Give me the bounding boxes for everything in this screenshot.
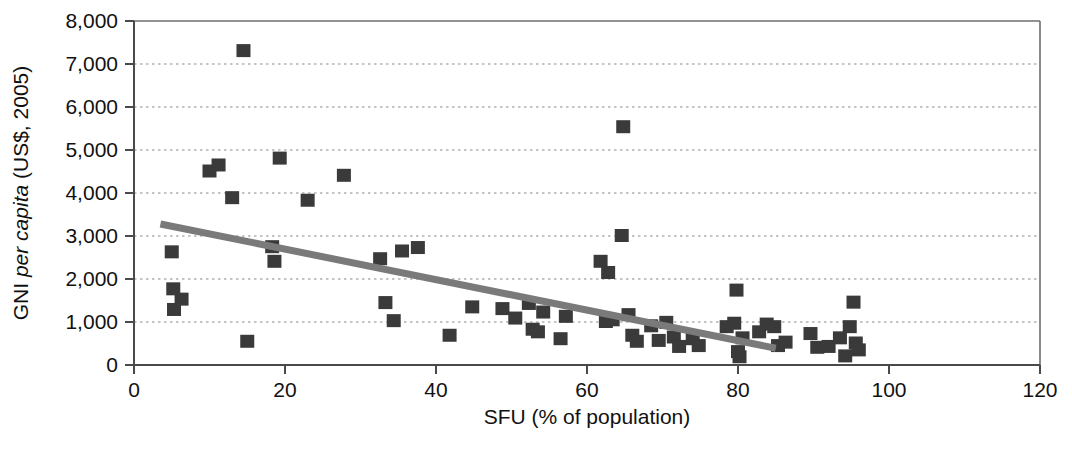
y-axis-title: GNI per capita (US$, 2005) xyxy=(9,66,32,320)
data-point-marker xyxy=(495,302,509,315)
y-tick-label: 1,000 xyxy=(65,310,118,333)
data-point-marker xyxy=(411,241,425,254)
y-tick-label: 4,000 xyxy=(65,181,118,204)
data-point-marker xyxy=(727,317,741,330)
grid-lines xyxy=(134,64,1040,322)
x-tick-label: 120 xyxy=(1022,378,1057,401)
data-point-marker xyxy=(225,191,239,204)
x-tick-label: 80 xyxy=(726,378,749,401)
data-point-marker xyxy=(267,255,281,268)
data-point-marker xyxy=(273,152,287,165)
y-tick-label: 5,000 xyxy=(65,138,118,161)
data-point-marker xyxy=(337,169,351,182)
data-point-marker xyxy=(729,284,743,297)
data-point-marker xyxy=(387,314,401,327)
data-point-marker xyxy=(847,296,861,309)
chart-figure: 01,0002,0003,0004,0005,0006,0007,0008,00… xyxy=(0,0,1072,456)
data-point-marker xyxy=(240,335,254,348)
y-axis-title-part: (US$, 2005) xyxy=(9,66,32,185)
x-tick-label: 100 xyxy=(871,378,906,401)
data-point-marker xyxy=(395,244,409,257)
data-point-marker xyxy=(615,229,629,242)
y-axis-title-part: per capita xyxy=(9,185,32,278)
data-point-marker xyxy=(559,310,573,323)
data-points xyxy=(165,44,866,363)
x-axis: 020406080100120 xyxy=(128,365,1057,401)
y-tick-label: 2,000 xyxy=(65,267,118,290)
x-axis-title: SFU (% of population) xyxy=(484,405,691,428)
y-tick-label: 6,000 xyxy=(65,95,118,118)
data-point-marker xyxy=(601,266,615,279)
trend-line xyxy=(160,224,775,348)
data-point-marker xyxy=(378,296,392,309)
data-point-marker xyxy=(508,312,522,325)
data-point-marker xyxy=(852,343,866,356)
data-point-marker xyxy=(630,335,644,348)
y-tick-label: 3,000 xyxy=(65,224,118,247)
data-point-marker xyxy=(443,329,457,342)
data-point-marker xyxy=(779,336,793,349)
data-point-marker xyxy=(531,325,545,338)
y-axis-title-part: GNI xyxy=(9,277,32,320)
data-point-marker xyxy=(373,252,387,265)
data-point-marker xyxy=(236,44,250,57)
x-tick-label: 20 xyxy=(273,378,296,401)
data-point-marker xyxy=(536,306,550,319)
data-point-marker xyxy=(616,120,630,133)
x-tick-label: 60 xyxy=(575,378,598,401)
y-tick-label: 8,000 xyxy=(65,9,118,32)
data-point-marker xyxy=(594,255,608,268)
data-point-marker xyxy=(838,349,852,362)
data-point-marker xyxy=(554,332,568,345)
data-point-marker xyxy=(212,158,226,171)
data-point-marker xyxy=(833,331,847,344)
data-point-marker xyxy=(175,293,189,306)
y-tick-label: 0 xyxy=(106,353,118,376)
data-point-marker xyxy=(301,194,315,207)
data-point-marker xyxy=(843,320,857,333)
data-point-marker xyxy=(767,320,781,333)
data-point-marker xyxy=(803,327,817,340)
data-point-marker xyxy=(692,339,706,352)
x-tick-label: 0 xyxy=(128,378,140,401)
x-tick-label: 40 xyxy=(424,378,447,401)
data-point-marker xyxy=(165,245,179,258)
data-point-marker xyxy=(465,300,479,313)
scatter-plot-svg: 01,0002,0003,0004,0005,0006,0007,0008,00… xyxy=(0,0,1072,456)
y-axis: 01,0002,0003,0004,0005,0006,0007,0008,00… xyxy=(65,9,134,376)
data-point-marker xyxy=(652,334,666,347)
data-point-marker xyxy=(672,340,686,353)
y-tick-label: 7,000 xyxy=(65,52,118,75)
data-point-marker xyxy=(733,350,747,363)
